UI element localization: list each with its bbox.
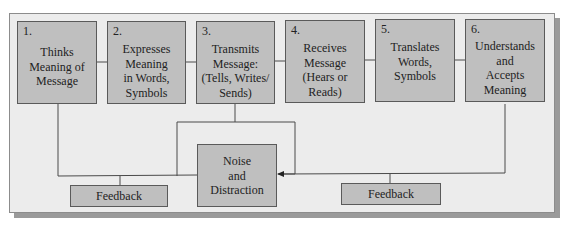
step-1-box: 1. Thinks Meaning of Message: [17, 21, 97, 104]
step-line: in Words,: [108, 71, 185, 86]
step-number: 2.: [113, 25, 122, 38]
step-line: Meaning: [466, 83, 544, 98]
step-number: 6.: [471, 23, 480, 36]
step-line: Receives: [286, 41, 364, 56]
step-line: Message:: [197, 57, 274, 72]
step-line: Meaning: [108, 57, 185, 72]
step-line: Sends): [197, 86, 274, 101]
step-line: Translates: [376, 40, 454, 55]
step-number: 5.: [381, 23, 390, 36]
step-number: 1.: [23, 25, 32, 38]
step-number: 4.: [291, 24, 300, 37]
step-4-box: 4. Receives Message (Hears or Reads): [285, 20, 365, 103]
step-line: Transmits: [197, 42, 274, 57]
step-5-box: 5. Translates Words, Symbols: [375, 19, 455, 102]
step-3-box: 3. Transmits Message: (Tells, Writes/ Se…: [196, 21, 275, 104]
step-line: Thinks: [18, 45, 96, 60]
step-number: 3.: [202, 25, 211, 38]
noise-line: and: [198, 169, 276, 184]
step-line: Message: [286, 56, 364, 71]
step-line: Symbols: [376, 69, 454, 84]
step-line: Message: [18, 74, 96, 89]
step-line: (Tells, Writes/: [197, 71, 274, 86]
step-line: Understands: [466, 39, 544, 54]
feedback-right-box: Feedback: [341, 183, 441, 205]
feedback-left-label: Feedback: [71, 189, 167, 204]
step-2-box: 2. Expresses Meaning in Words, Symbols: [107, 21, 186, 104]
arrow-left-icon: [277, 171, 284, 177]
step-6-box: 6. Understands and Accepts Meaning: [465, 19, 545, 102]
step-line: Reads): [286, 85, 364, 100]
feedback-right-label: Feedback: [342, 187, 440, 202]
step-line: Meaning of: [18, 60, 96, 75]
step-line: Words,: [376, 55, 454, 70]
noise-line: Distraction: [198, 183, 276, 198]
step-line: Accepts: [466, 68, 544, 83]
step-line: (Hears or: [286, 70, 364, 85]
step-line: and: [466, 54, 544, 69]
noise-distraction-box: Noise and Distraction: [197, 144, 277, 207]
noise-line: Noise: [198, 154, 276, 169]
feedback-left-box: Feedback: [70, 185, 168, 207]
step-line: Symbols: [108, 86, 185, 101]
step-line: Expresses: [108, 42, 185, 57]
